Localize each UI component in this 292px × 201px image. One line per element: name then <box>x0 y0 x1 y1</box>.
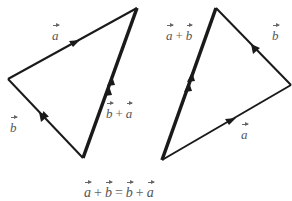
label-sum-right: a+b <box>166 23 192 42</box>
vector-a-right <box>162 85 291 160</box>
label-a-left: a <box>52 23 59 42</box>
commutative-equation: a+b=b+a <box>84 180 154 200</box>
left-triangle <box>8 8 137 158</box>
label-b-right: b <box>272 23 279 42</box>
vector-addition-diagram <box>0 0 292 201</box>
label-sum-left: b+a <box>106 101 132 120</box>
label-a-right: a <box>241 122 248 141</box>
vector-b-left <box>8 79 83 158</box>
arrowheads <box>39 40 260 125</box>
label-b-left: b <box>10 115 17 134</box>
